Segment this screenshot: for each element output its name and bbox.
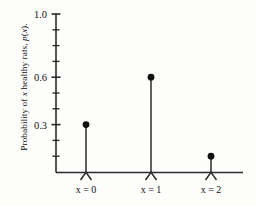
- x-tick-caret-2: [206, 172, 217, 180]
- y-tick-label-1-0: 1.0: [34, 9, 47, 20]
- x-tick-caret-0: [81, 172, 92, 180]
- y-tick-label-0-6: 0.6: [34, 72, 47, 83]
- x-tick-label-1: x = 1: [141, 184, 162, 195]
- data-point-x1: [148, 74, 155, 81]
- x-tick-caret-1: [146, 172, 157, 180]
- y-tick-label-0-3: 0.3: [34, 120, 47, 131]
- plot-area: 1.0 0.6 0.3 x = 0 x = 1 x = 2: [0, 0, 256, 206]
- x-tick-label-0: x = 0: [76, 184, 97, 195]
- data-point-x2: [208, 153, 215, 160]
- data-point-x0: [83, 121, 90, 128]
- probability-chart-figure: Probability of x healthy rats, p(x). 1.0…: [0, 0, 256, 206]
- x-tick-label-2: x = 2: [201, 184, 222, 195]
